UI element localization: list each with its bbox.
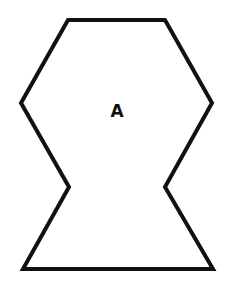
notched-polygon-shape xyxy=(21,20,213,269)
shape-label: A xyxy=(110,101,124,121)
diagram-canvas: A xyxy=(0,0,234,287)
diagram-svg: A xyxy=(0,0,234,287)
